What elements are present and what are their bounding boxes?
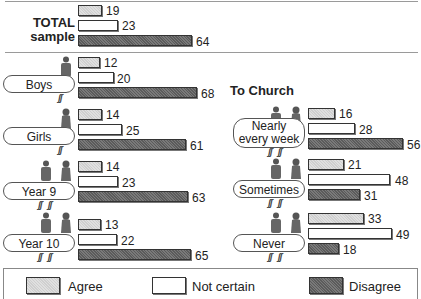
total-sample-label: TOTAL sample [5,16,75,44]
section-divider [5,52,418,53]
bar-year10-disagree [78,249,191,260]
group-label-girls: Girls [3,127,75,145]
bar-nearly-disagree [308,138,403,149]
girl-figure-icon [290,212,302,234]
bar-girls-disagree [78,139,186,150]
bar-year9-not-certain [78,176,118,187]
value-girls-not-certain: 25 [126,125,139,137]
value-total-not-certain: 23 [122,20,135,32]
value-year9-agree: 14 [106,161,119,173]
value-year9-not-certain: 23 [122,177,135,189]
value-sometimes-disagree: 31 [364,190,377,202]
group-label-nearly-every-week: Nearly every week [233,118,305,148]
girl-figure-icon [60,160,72,182]
value-year10-disagree: 65 [195,250,208,262]
group-label-never: Never [233,234,305,252]
bar-nearly-not-certain [308,123,355,134]
feet-icon: ʃʃ [58,145,62,155]
value-boys-agree: 12 [104,57,117,69]
bar-never-not-certain [308,228,392,239]
top-rule [5,1,418,2]
legend-swatch-disagree [309,277,343,294]
value-boys-not-certain: 20 [117,73,130,85]
group-label-year-9: Year 9 [3,182,75,200]
bar-year10-agree [78,219,101,230]
bar-sometimes-disagree [308,189,360,200]
value-year10-not-certain: 22 [121,235,134,247]
feet-icon: ʃʃ ʃʃ [268,252,282,262]
boy-figure-icon [40,212,52,234]
bar-girls-agree [78,109,102,120]
value-nearly-disagree: 56 [407,139,420,151]
value-year10-agree: 13 [105,219,118,231]
feet-icon: ʃʃ [58,93,62,103]
boy-figure-icon [270,212,282,234]
girl-figure-icon [290,158,302,180]
bar-boys-not-certain [78,72,114,83]
bar-sometimes-agree [308,159,344,170]
group-label-boys: Boys [3,75,75,93]
bar-year9-agree [78,161,102,172]
value-never-not-certain: 49 [396,229,409,241]
value-total-agree: 19 [106,5,119,17]
bar-never-agree [308,213,364,224]
feet-icon: ʃʃ ʃʃ [268,198,282,208]
value-nearly-not-certain: 28 [359,124,372,136]
legend-swatch-agree [26,277,60,294]
value-boys-disagree: 68 [201,88,214,100]
feet-icon: ʃʃ ʃʃ [38,252,52,262]
bar-total-agree [78,5,102,16]
bar-never-disagree [308,243,339,254]
legend-label-agree: Agree [68,279,103,294]
value-never-agree: 33 [368,213,381,225]
bar-total-disagree [78,35,192,46]
boy-figure-icon [270,158,282,180]
bar-sometimes-not-certain [308,174,390,185]
bar-boys-agree [78,57,100,68]
group-label-year-10: Year 10 [3,234,75,252]
bar-nearly-agree [308,108,335,119]
value-year9-disagree: 63 [192,192,205,204]
value-total-disagree: 64 [196,36,209,48]
bar-year10-not-certain [78,234,117,245]
legend-swatch-not-certain [152,277,186,294]
feet-icon: ʃʃ ʃʃ [38,200,52,210]
girl-figure-icon [60,212,72,234]
legend-label-disagree: Disagree [349,279,401,294]
section-title-to-church: To Church [230,83,294,98]
bar-boys-disagree [78,87,197,98]
bar-total-not-certain [78,20,118,31]
legend-label-not-certain: Not certain [192,279,255,294]
bar-year9-disagree [78,191,188,202]
group-label-sometimes: Sometimes [233,180,305,198]
feet-icon: ʃʃ ʃʃ [268,147,282,157]
legend: Agree Not certain Disagree [3,268,418,299]
value-sometimes-not-certain: 48 [395,175,408,187]
value-never-disagree: 18 [343,244,356,256]
bar-girls-not-certain [78,124,122,135]
boy-figure-icon [40,160,52,182]
value-nearly-agree: 16 [339,108,352,120]
value-sometimes-agree: 21 [348,159,361,171]
value-girls-disagree: 61 [190,140,203,152]
value-girls-agree: 14 [106,109,119,121]
